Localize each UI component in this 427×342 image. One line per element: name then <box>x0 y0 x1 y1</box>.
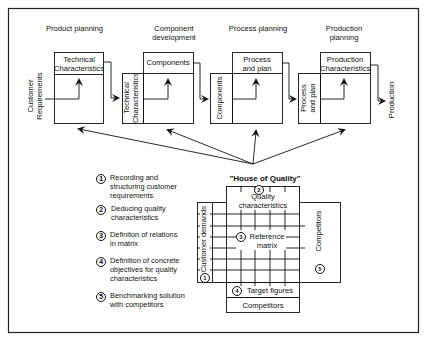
hoq-competitors-side: Competitors <box>315 207 325 255</box>
hoq-arrows <box>79 129 344 164</box>
hoq-marker-5: 5 <box>315 264 325 274</box>
stage-title-product-planning: Product planning <box>46 24 136 33</box>
diagram-lines <box>0 0 427 342</box>
hoq-title: "House of Quality" <box>220 174 310 183</box>
stage-title-production-planning: Production planning <box>314 24 374 42</box>
hoq-reference-matrix: Reference matrix <box>248 232 286 250</box>
hoq-target-figures: Target figures <box>243 286 297 295</box>
step-5-number: 5 <box>96 292 106 302</box>
step-3-text: Definiton of relations in matrix <box>110 230 182 248</box>
step-4-text: Definition of concrete objectives for qu… <box>110 256 190 283</box>
step-1-text: Recording and structuring customer requi… <box>110 173 190 200</box>
hoq-quality-characteristics: Quality characteristics <box>227 192 299 210</box>
hoq-competitors-bottom: Competitors <box>227 301 299 310</box>
step-5-text: Benchmarking solution with competitors <box>110 291 185 309</box>
stage-1-top-box: Technical Characteristics <box>54 55 104 73</box>
stage-1-left-label: Customer Requirements <box>27 66 45 126</box>
stage-3-left-label: Components <box>216 73 226 123</box>
stage-2-left-label: Technical Characteristics <box>123 69 141 127</box>
qfd-diagram: Product planning Component development P… <box>0 0 427 342</box>
hoq-marker-1: 1 <box>200 273 210 283</box>
step-4-number: 4 <box>96 257 106 267</box>
hoq-marker-2: 2 <box>254 185 264 195</box>
hoq-marker-3: 3 <box>236 232 246 242</box>
stage-title-process-planning: Process planning <box>218 24 298 33</box>
step-2-number: 2 <box>96 205 106 215</box>
step-3-number: 3 <box>96 231 106 241</box>
production-output-label: Production <box>388 78 398 122</box>
stage-title-component-development: Component development <box>144 24 204 42</box>
stage-2-top-box: Components <box>143 58 193 67</box>
step-2-text: Deducing quality characteristics <box>111 204 176 222</box>
stage-4-left-label: Process and plan <box>300 78 318 118</box>
stage-4-top-box: Production Characteristics <box>320 55 370 73</box>
stage-3-top-box: Process and plan <box>236 55 278 73</box>
hoq-customer-demands: Customer demands <box>200 204 210 274</box>
step-1-number: 1 <box>96 174 106 184</box>
hoq-marker-4: 4 <box>232 286 242 296</box>
